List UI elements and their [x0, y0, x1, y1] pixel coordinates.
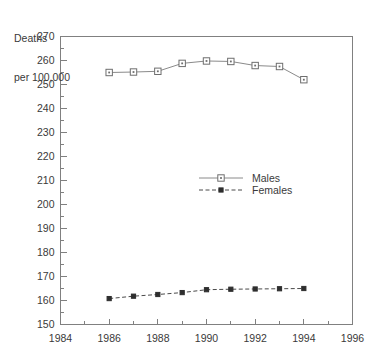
y-tick-label: 230	[37, 126, 55, 138]
x-tick-label: 1996	[341, 332, 365, 344]
data-point-males-center	[133, 71, 135, 73]
x-tick-label: 1994	[292, 332, 316, 344]
data-point-males-center	[108, 72, 110, 74]
plot-frame	[61, 37, 353, 325]
y-tick-label: 190	[37, 222, 55, 234]
y-axis-title: Deaths per 100,000	[14, 6, 70, 110]
data-point-females	[180, 290, 184, 294]
x-tick-label: 1990	[195, 332, 219, 344]
y-tick-label: 160	[37, 294, 55, 306]
legend-label-males: Males	[252, 172, 280, 184]
data-point-males-center	[279, 66, 281, 68]
data-point-females	[131, 294, 135, 298]
legend-marker-males-center	[220, 177, 222, 179]
data-point-males-center	[206, 60, 208, 62]
legend-label-females: Females	[252, 184, 292, 196]
data-point-males-center	[254, 65, 256, 67]
y-tick-label: 180	[37, 246, 55, 258]
data-point-females	[277, 287, 281, 291]
y-axis-title-line-1: Deaths	[14, 32, 70, 45]
data-point-females	[302, 286, 306, 290]
data-point-males-center	[181, 62, 183, 64]
data-point-males-center	[157, 70, 159, 72]
data-point-females	[229, 287, 233, 291]
y-tick-label: 220	[37, 150, 55, 162]
data-point-males-center	[230, 61, 232, 63]
line-chart: Deaths per 100,000 150160170180190200210…	[0, 0, 366, 363]
data-point-females	[107, 296, 111, 300]
data-point-females	[204, 288, 208, 292]
y-tick-label: 210	[37, 174, 55, 186]
y-tick-label: 200	[37, 198, 55, 210]
x-tick-label: 1992	[243, 332, 267, 344]
y-tick-label: 170	[37, 270, 55, 282]
data-point-females	[253, 287, 257, 291]
x-tick-label: 1986	[97, 332, 121, 344]
y-axis-title-line-2: per 100,000	[14, 71, 70, 84]
data-point-females	[156, 292, 160, 296]
y-tick-label: 150	[37, 318, 55, 330]
x-tick-label: 1984	[49, 332, 73, 344]
x-axis-ticks: 1984198619881990199219941996	[49, 319, 365, 344]
legend-marker-females	[219, 188, 223, 192]
data-point-males-center	[303, 79, 305, 81]
x-tick-label: 1988	[146, 332, 170, 344]
chart-legend: MalesFemales	[199, 172, 292, 196]
